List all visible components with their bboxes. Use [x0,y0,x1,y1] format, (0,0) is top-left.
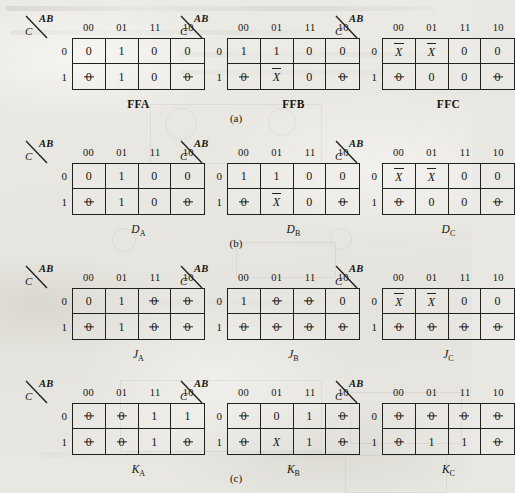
column-header-10: 10 [482,272,515,283]
kmap-cell[interactable]: 1 [106,189,139,214]
kmap-cell[interactable]: 0 [73,404,106,429]
kmap-cell[interactable]: 0 [73,314,106,339]
kmap-cell[interactable]: 0 [383,429,416,454]
kmap-ffc: ABC0001111001XX000000FFC [320,14,515,114]
kmap-cell[interactable]: 0 [481,64,514,89]
kmap-cell-value: 0 [274,410,280,422]
kmap-cell[interactable]: 0 [261,314,294,339]
kmap-cell[interactable]: 1 [106,314,139,339]
column-variable-label: AB [349,263,364,274]
kmap-row-headers: 01 [50,163,70,215]
kmap-cell[interactable]: 1 [449,429,482,454]
kmap-kc: ABC000111100100000110KC [320,379,515,479]
kmap-row-headers: 01 [205,163,225,215]
kmap-cell[interactable]: 0 [228,404,261,429]
row-header-1: 1 [50,189,70,215]
column-header-01: 01 [105,387,138,398]
kmap-cell[interactable]: 0 [73,164,106,189]
kmap-cell-value: 0 [86,295,92,307]
kmap-cell[interactable]: 1 [106,164,139,189]
kmap-cell[interactable]: X [416,289,449,314]
kmap-cell[interactable]: 0 [449,64,482,89]
kmap-cell[interactable]: 0 [416,189,449,214]
kmap-cell[interactable]: 0 [73,189,106,214]
kmap-cell[interactable]: 0 [481,289,514,314]
kmap-cell[interactable]: 0 [481,314,514,339]
kmap-cell[interactable]: 1 [416,429,449,454]
kmap-cell[interactable]: 0 [416,404,449,429]
column-header-00: 00 [227,22,260,33]
kmap-cell[interactable]: 0 [416,64,449,89]
kmap-cell[interactable]: 0 [481,189,514,214]
kmap-cell[interactable]: 0 [383,314,416,339]
column-variable-label: AB [194,263,209,274]
kmap-cell[interactable]: 0 [228,189,261,214]
kmap-cell-value: 1 [119,170,125,182]
kmap-cell[interactable]: 0 [383,64,416,89]
kmap-label-ffc: FFC [382,98,515,110]
kmap-cell[interactable]: 0 [228,429,261,454]
kmap-cell[interactable]: 0 [416,314,449,339]
kmap-cell[interactable]: X [383,39,416,64]
column-header-11: 11 [449,22,482,33]
kmap-row-headers: 01 [50,288,70,340]
kmap-cell[interactable]: 1 [228,39,261,64]
kmap-cell[interactable]: 1 [228,164,261,189]
kmap-cell-value: 0 [461,196,467,208]
row-variable-label: C [335,275,342,287]
kmap-cell[interactable]: X [416,39,449,64]
column-header-00: 00 [227,147,260,158]
kmap-cell[interactable]: 0 [449,39,482,64]
kmap-cell[interactable]: 0 [106,404,139,429]
kmap-cell-value: 0 [306,71,312,83]
row-header-0: 0 [205,38,225,64]
kmap-cell[interactable]: 0 [261,404,294,429]
kmap-cell[interactable]: 1 [228,289,261,314]
kmap-cell[interactable]: 0 [228,314,261,339]
kmap-cell[interactable]: 0 [73,39,106,64]
kmap-label-text: DA [131,223,145,235]
kmap-cell[interactable]: 0 [481,404,514,429]
kmap-cell[interactable]: 0 [106,429,139,454]
kmap-cell[interactable]: 1 [106,39,139,64]
kmap-cell-value: 0 [274,295,280,307]
kmap-label-text: FFC [437,98,460,110]
kmap-cell[interactable]: 0 [449,164,482,189]
kmap-column-headers: 00011110 [382,147,515,158]
kmap-cell[interactable]: 0 [481,164,514,189]
kmap-cell-value: 1 [461,436,467,448]
column-header-00: 00 [382,147,415,158]
kmap-cell[interactable]: 0 [449,404,482,429]
kmap-cell[interactable]: 0 [73,429,106,454]
kmap-cell[interactable]: X [261,189,294,214]
kmap-cell[interactable]: 0 [261,289,294,314]
kmap-cell[interactable]: 0 [383,189,416,214]
kmap-cell[interactable]: X [261,64,294,89]
kmap-cell[interactable]: 0 [481,429,514,454]
kmap-cell[interactable]: X [416,164,449,189]
kmap-cell[interactable]: X [383,164,416,189]
kmap-cell[interactable]: 0 [449,189,482,214]
kmap-cell[interactable]: X [261,429,294,454]
kmap-label-subscript: C [448,354,454,363]
kmap-cell-value: 0 [495,45,501,57]
kmap-cell[interactable]: 0 [449,314,482,339]
kmap-cell[interactable]: 1 [106,64,139,89]
kmap-cell[interactable]: 1 [106,289,139,314]
kmap-cell-value: 0 [151,295,157,307]
kmap-row-headers: 01 [360,288,380,340]
kmap-cell[interactable]: X [383,289,416,314]
kmap-cell[interactable]: 0 [449,289,482,314]
kmap-cell[interactable]: 1 [261,39,294,64]
kmap-cell[interactable]: 0 [481,39,514,64]
kmap-cell[interactable]: 1 [261,164,294,189]
kmap-cell[interactable]: 0 [228,64,261,89]
kmap-cell-value: 0 [241,196,247,208]
kmap-cell[interactable]: 0 [73,289,106,314]
kmap-cell[interactable]: 0 [383,404,416,429]
kmap-cell-value: 0 [86,170,92,182]
row-header-0: 0 [205,163,225,189]
kmap-cell[interactable]: 0 [73,64,106,89]
kmap-row-headers: 01 [50,403,70,455]
kmap-label-text: JA [133,348,144,360]
